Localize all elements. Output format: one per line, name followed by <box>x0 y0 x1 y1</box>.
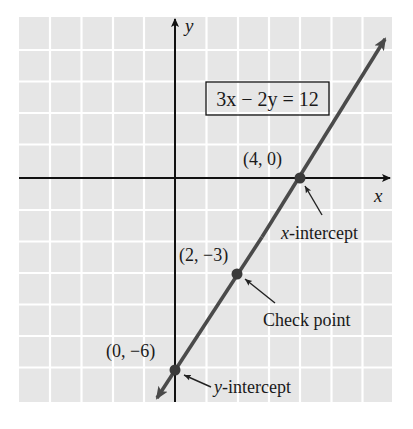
annotation-check-point: Check point <box>263 310 351 330</box>
point-x-intercept <box>295 173 306 184</box>
x-axis-label: x <box>373 185 383 206</box>
equation-label: 3x − 2y = 12 <box>216 88 319 111</box>
y-axis-label: y <box>183 15 194 36</box>
annotation-y-intercept: y-intercept <box>212 377 291 397</box>
label-x-intercept-coords: (4, 0) <box>243 149 282 170</box>
line-graph: x y 3x − 2y = 12 (4, 0) (2, −3) (0, −6) … <box>0 0 413 429</box>
label-check-coords: (2, −3) <box>179 245 228 266</box>
point-y-intercept <box>170 365 181 376</box>
annotation-x-intercept: x-intercept <box>280 223 358 243</box>
point-check <box>232 269 243 280</box>
label-y-intercept-coords: (0, −6) <box>106 341 155 362</box>
